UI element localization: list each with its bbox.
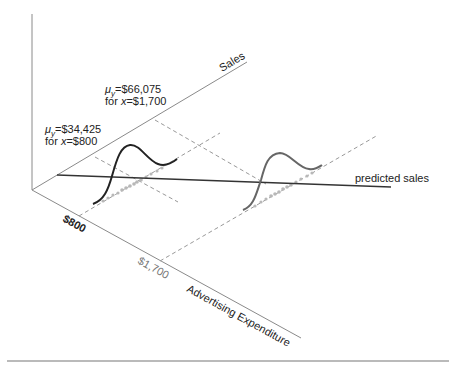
tick-800: $800 xyxy=(61,212,88,234)
predicted-sales-line xyxy=(57,175,391,187)
guide-66075-adv xyxy=(155,120,266,184)
predicted-sales-label: predicted sales xyxy=(355,172,429,184)
annotation-mean-1700: μy=$66,075 for x=$1,700 xyxy=(104,83,166,107)
advertising-axis xyxy=(32,190,301,338)
regression-diagram: Sales Advertising Expenditure $800 $1,70… xyxy=(0,0,450,368)
tick-1700: $1,700 xyxy=(136,254,171,281)
svg-text:for x=$1,700: for x=$1,700 xyxy=(105,95,166,107)
advertising-axis-label: Advertising Expenditure xyxy=(185,282,293,348)
annotation-mean-800: μy=$34,425 for x=$800 xyxy=(44,123,101,147)
guide-1700-sales xyxy=(160,135,378,261)
sales-axis-label: Sales xyxy=(217,49,247,74)
svg-text:for x=$800: for x=$800 xyxy=(45,135,97,147)
